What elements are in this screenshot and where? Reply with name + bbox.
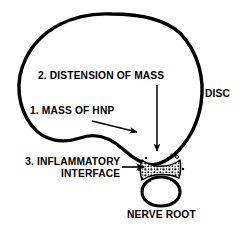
label-disc: DISC: [205, 87, 230, 99]
label-nerve-root: NERVE ROOT: [127, 208, 196, 220]
label-inflammatory-line2: INTERFACE: [25, 167, 120, 179]
nerve-root-oval: [142, 177, 180, 206]
label-inflammatory-interface: 3. INFLAMMATORY INTERFACE: [25, 155, 120, 179]
label-inflammatory-line1: 3. INFLAMMATORY: [25, 155, 120, 167]
label-distension-of-mass: 2. DISTENSION OF MASS: [38, 69, 164, 81]
label-mass-of-hnp: 1. MASS OF HNP: [30, 104, 114, 116]
disc-outline: [19, 14, 202, 165]
diagram-canvas: [0, 0, 252, 232]
hnp-disc-diagram: 2. DISTENSION OF MASS 1. MASS OF HNP 3. …: [0, 0, 252, 232]
